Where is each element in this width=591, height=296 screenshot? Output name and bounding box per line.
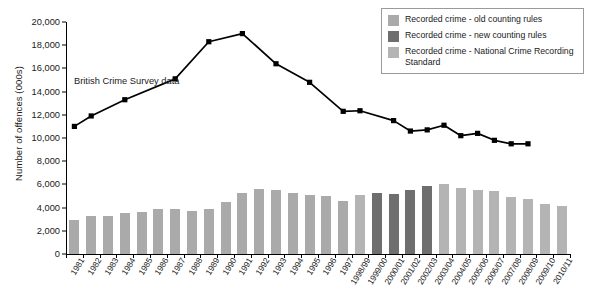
bcs-data-marker <box>391 118 396 123</box>
x-tick-label: 1984 <box>119 256 137 277</box>
x-tick-label: 1990 <box>220 256 238 277</box>
legend: Recorded crime - old counting rules Reco… <box>381 8 584 74</box>
bcs-data-marker <box>475 131 480 136</box>
x-tick-label: 1987 <box>170 256 188 277</box>
crime-statistics-chart: Number of offences (000s) 02,0004,0006,0… <box>0 0 591 296</box>
legend-swatch-old-counting-rules <box>388 15 399 26</box>
bcs-data-marker <box>122 97 127 102</box>
bcs-data-marker <box>89 113 94 118</box>
bcs-data-marker <box>525 141 530 146</box>
legend-item-ncrs: Recorded crime - National Crime Recordin… <box>388 46 577 67</box>
x-tick-label: 1988 <box>186 256 204 277</box>
legend-item-old-counting-rules: Recorded crime - old counting rules <box>388 14 577 26</box>
legend-swatch-ncrs <box>388 47 399 58</box>
x-tick-label: 1991 <box>237 256 255 277</box>
y-tick-label: 8,000 <box>0 156 66 166</box>
y-tick-label: 0 <box>0 249 66 259</box>
bcs-annotation: British Crime Survey data <box>74 76 179 86</box>
bcs-data-marker <box>425 127 430 132</box>
y-tick-label: 2,000 <box>0 226 66 236</box>
x-tick-label: 1983 <box>102 256 120 277</box>
legend-label-old-counting-rules: Recorded crime - old counting rules <box>405 14 542 25</box>
y-tick-label: 4,000 <box>0 203 66 213</box>
x-tick-label: 1994 <box>287 256 305 277</box>
y-tick-label: 6,000 <box>0 179 66 189</box>
y-tick-label: 10,000 <box>0 133 66 143</box>
x-tick-label: 1993 <box>270 256 288 277</box>
legend-swatch-new-counting-rules <box>388 31 399 42</box>
y-tick-label: 16,000 <box>0 63 66 73</box>
x-tick-label: 1982 <box>86 256 104 277</box>
y-tick-label: 18,000 <box>0 40 66 50</box>
x-tick-label: 1992 <box>254 256 272 277</box>
bcs-data-marker <box>357 108 362 113</box>
bcs-data-marker <box>509 141 514 146</box>
bcs-data-marker <box>72 124 77 129</box>
x-tick-label: 1995 <box>304 256 322 277</box>
y-tick-label: 14,000 <box>0 87 66 97</box>
x-tick-label: 1981 <box>69 256 87 277</box>
bcs-data-marker <box>408 128 413 133</box>
x-tick-label: 1989 <box>203 256 221 277</box>
bcs-data-marker <box>206 39 211 44</box>
x-tick-mark <box>570 254 571 258</box>
bcs-data-marker <box>441 123 446 128</box>
y-tick-label: 12,000 <box>0 110 66 120</box>
legend-label-ncrs: Recorded crime - National Crime Recordin… <box>405 46 577 67</box>
x-tick-label: 1985 <box>136 256 154 277</box>
legend-item-new-counting-rules: Recorded crime - new counting rules <box>388 30 577 42</box>
bcs-data-marker <box>273 61 278 66</box>
bcs-data-marker <box>458 133 463 138</box>
legend-label-new-counting-rules: Recorded crime - new counting rules <box>405 30 546 41</box>
x-axis-labels: 1981198219831984198519861987198819891990… <box>66 256 570 296</box>
bcs-data-marker <box>492 138 497 143</box>
y-tick-label: 20,000 <box>0 17 66 27</box>
bcs-data-marker <box>240 31 245 36</box>
x-tick-label: 1996 <box>321 256 339 277</box>
x-tick-label: 1986 <box>153 256 171 277</box>
bcs-data-marker <box>341 109 346 114</box>
bcs-data-marker <box>307 80 312 85</box>
